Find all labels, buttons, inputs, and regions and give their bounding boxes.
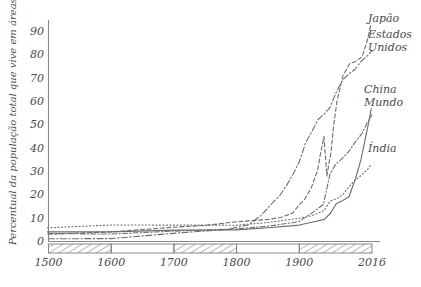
series-label: Estados: [367, 28, 412, 41]
urbanization-line-chart: Percentual da população total que vive e…: [0, 0, 421, 287]
x-axis-tick: 1800: [223, 256, 251, 269]
timebar-segment-outline: [111, 244, 174, 253]
series-line-mundo: [48, 115, 371, 234]
timebar-segment-hatched: [299, 244, 372, 253]
timebar-segment-hatched: [49, 244, 112, 253]
series-label: Japão: [366, 12, 400, 25]
y-axis-tick: 70: [30, 72, 44, 85]
timebar-segment-hatched: [174, 244, 237, 253]
x-axis-tick: 1700: [160, 256, 188, 269]
series-line-índia: [47, 164, 371, 227]
series-label: Índia: [367, 141, 397, 155]
timebar-segment-outline: [237, 244, 300, 253]
x-axis-tick-labels: 150016001700180019002016: [35, 256, 387, 269]
series-label: Mundo: [363, 96, 403, 109]
x-axis-tick: 1600: [97, 256, 125, 269]
y-axis-tick-labels: 0102030405060708090: [29, 25, 44, 248]
y-axis-tick: 30: [30, 165, 44, 178]
x-axis-tick: 1900: [285, 256, 313, 269]
y-axis-tick: 60: [30, 95, 44, 108]
series-label: Unidos: [368, 41, 408, 54]
series-label: China: [364, 83, 397, 96]
series-annotation-labels: JapãoEstadosUnidosChinaMundoÍndia: [363, 12, 412, 155]
axis-lines: [49, 20, 381, 242]
x-axis-tick: 1500: [35, 256, 63, 269]
y-axis-title: Percentual da população total que vive e…: [7, 0, 18, 246]
y-axis-tick: 90: [30, 25, 44, 38]
series-lines: [47, 24, 372, 239]
chart-canvas: Percentual da população total que vive e…: [0, 0, 421, 287]
y-axis-tick: 0: [37, 235, 44, 248]
y-axis-tick: 40: [29, 142, 44, 155]
y-axis-tick: 80: [30, 48, 44, 61]
y-axis-tick: 20: [29, 188, 44, 201]
y-axis-title-text: Percentual da população total que vive e…: [7, 0, 18, 246]
x-axis-tick: 2016: [357, 256, 386, 269]
century-time-bar: [49, 244, 373, 253]
y-axis-tick: 50: [30, 118, 44, 131]
series-line-japão: [48, 24, 371, 234]
y-axis-tick: 10: [30, 212, 44, 225]
series-line-china: [47, 109, 371, 232]
